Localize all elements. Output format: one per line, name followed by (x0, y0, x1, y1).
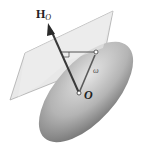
origin-point (77, 91, 81, 95)
angular-momentum-subscript: O (45, 13, 51, 22)
contact-point (94, 50, 98, 54)
angular-momentum-label: HO (36, 8, 51, 22)
angular-momentum-symbol: H (36, 7, 45, 21)
angular-momentum-arrowhead (47, 23, 55, 36)
origin-label: O (84, 89, 93, 101)
inertia-ellipsoid-diagram (0, 0, 144, 147)
omega-label: ω (93, 67, 99, 75)
